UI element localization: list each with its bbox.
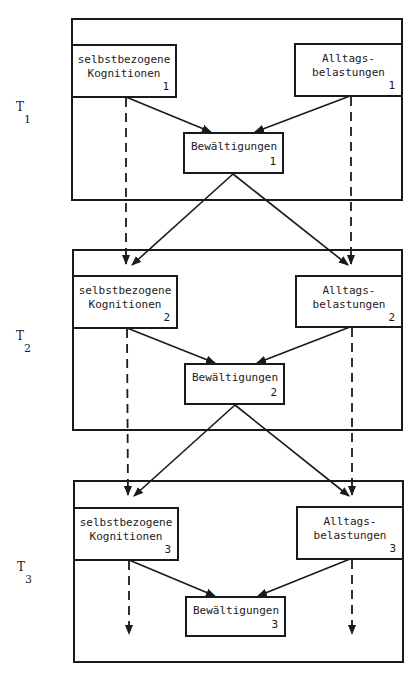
edge-bel3-bew3: [258, 559, 350, 596]
time-label-index: 3: [25, 573, 32, 586]
edge-bew1-bel2: [233, 174, 348, 265]
node-line1: selbstbezogene: [73, 53, 175, 67]
node-line2: belastungen: [296, 66, 401, 80]
node-line1: Alltags-: [297, 284, 401, 298]
edge-bel2-bew2: [257, 327, 350, 363]
node-kognitionen-3: selbstbezogene Kognitionen 3: [73, 507, 179, 561]
node-line2: Kognitionen: [74, 298, 176, 312]
node-line2: Kognitionen: [73, 67, 175, 81]
time-label-t1: T 1: [16, 100, 24, 114]
edge-bel1-bew1: [255, 96, 350, 132]
node-belastungen-1: Alltags- belastungen 1: [294, 43, 403, 97]
node-kognitionen-2: selbstbezogene Kognitionen 2: [72, 275, 178, 329]
node-line1: selbstbezogene: [74, 284, 176, 298]
node-line1: selbstbezogene: [75, 516, 177, 530]
node-subscript: 3: [164, 543, 171, 557]
node-line2: belastungen: [297, 298, 401, 312]
node-subscript: 1: [269, 155, 276, 169]
node-subscript: 2: [163, 311, 170, 325]
node-bewaeltigungen-3: Bewältigungen 3: [185, 596, 286, 637]
time-label-letter: T: [17, 560, 25, 574]
node-subscript: 1: [162, 80, 169, 94]
node-belastungen-3: Alltags- belastungen 3: [296, 506, 404, 560]
node-line2: Kognitionen: [75, 530, 177, 544]
time-label-index: 1: [24, 113, 31, 126]
edge-kog1-bew1: [126, 97, 211, 132]
node-belastungen-2: Alltags- belastungen 2: [295, 275, 403, 328]
node-subscript: 2: [270, 386, 277, 400]
node-line1: Bewältigungen: [192, 371, 278, 385]
node-bewaeltigungen-1: Bewältigungen 1: [183, 132, 284, 174]
node-bewaeltigungen-2: Bewältigungen 2: [184, 363, 285, 405]
edge-kog3-bew3: [129, 560, 215, 596]
time-label-letter: T: [16, 100, 24, 114]
node-line2: belastungen: [298, 529, 402, 543]
node-line1: Alltags-: [296, 52, 401, 66]
edge-kog2-kog3-dashed: [127, 329, 128, 495]
node-line1: Bewältigungen: [191, 140, 277, 154]
time-label-t3: T 3: [17, 560, 25, 574]
path-diagram: selbstbezogene Kognitionen 1 Alltags- be…: [0, 0, 420, 680]
edge-bew2-bel3: [235, 405, 349, 496]
edge-bew1-kog2: [132, 174, 233, 265]
node-line1: Bewältigungen: [193, 604, 279, 618]
node-line1: Alltags-: [298, 515, 402, 529]
node-subscript: 3: [389, 542, 396, 556]
edge-kog2-bew2: [127, 328, 215, 363]
edge-bew2-kog3: [134, 405, 235, 496]
node-subscript: 3: [271, 618, 278, 632]
node-kognitionen-1: selbstbezogene Kognitionen 1: [71, 44, 177, 98]
edges-layer: [0, 0, 420, 680]
node-subscript: 2: [388, 311, 395, 325]
time-label-t2: T 2: [16, 329, 24, 343]
time-label-index: 2: [24, 342, 31, 355]
node-subscript: 1: [388, 79, 395, 93]
time-label-letter: T: [16, 329, 24, 343]
